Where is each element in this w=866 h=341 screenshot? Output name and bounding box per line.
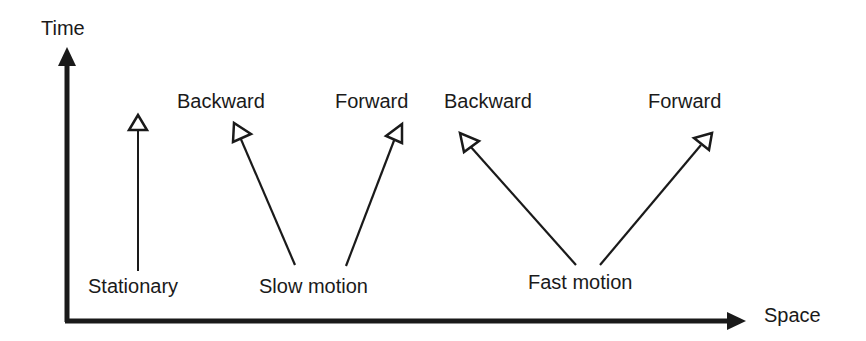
stationary-arrow — [129, 115, 147, 271]
spacetime-motion-diagram: Time Space Backward Forward Backward For… — [0, 0, 866, 341]
space-axis-arrowhead-icon — [727, 312, 746, 330]
fast-backward-arrow — [460, 133, 576, 265]
slow-motion-label: Slow motion — [259, 276, 368, 296]
fast-forward-arrow — [600, 133, 712, 265]
time-axis-arrowhead-icon — [58, 47, 76, 66]
slow-forward-label: Forward — [335, 91, 408, 111]
slow-forward-arrow — [346, 124, 402, 266]
time-axis — [58, 47, 76, 322]
stationary-label: Stationary — [88, 276, 178, 296]
slow-backward-label: Backward — [177, 91, 265, 111]
fast-forward-label: Forward — [648, 91, 721, 111]
hollow-arrowhead-icon — [233, 123, 251, 142]
space-axis-label: Space — [764, 305, 821, 325]
hollow-arrowhead-icon — [460, 133, 479, 152]
time-axis-label: Time — [41, 18, 85, 38]
hollow-arrowhead-icon — [129, 115, 147, 130]
space-axis — [65, 312, 746, 330]
fast-motion-label: Fast motion — [528, 272, 632, 292]
hollow-arrowhead-icon — [694, 133, 712, 150]
slow-backward-arrow — [233, 123, 295, 265]
fast-backward-label: Backward — [444, 91, 532, 111]
hollow-arrowhead-icon — [386, 124, 402, 143]
